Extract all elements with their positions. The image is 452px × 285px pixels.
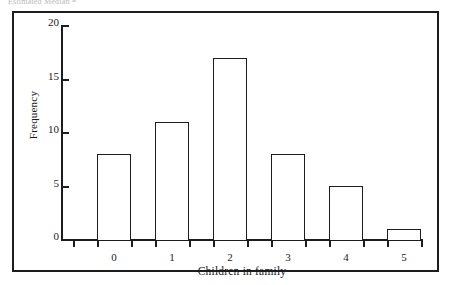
x-axis-tick-label-5: 5 <box>384 251 424 263</box>
y-axis-tick-15: 15 <box>63 79 69 81</box>
y-axis-label: Frequency <box>27 70 39 160</box>
y-axis-tick-0: 0 <box>63 239 69 241</box>
bar-category-5[interactable] <box>387 229 421 240</box>
x-axis-tick-label-3: 3 <box>268 251 308 263</box>
x-axis-tick-bar-0-right <box>131 241 133 247</box>
x-axis-tick-label-4: 4 <box>326 251 366 263</box>
x-axis-tick-bar-1-left <box>155 241 157 247</box>
x-axis-tick-edge <box>73 241 75 247</box>
y-axis-tick-label-20: 20 <box>48 17 59 28</box>
scan-artifact-top-text: Estimated Median = <box>8 0 308 7</box>
x-axis-label: Children in family <box>61 265 423 277</box>
bar-category-4[interactable] <box>329 186 363 240</box>
x-axis-tick-label-2: 2 <box>210 251 250 263</box>
bar-category-2[interactable] <box>213 58 247 240</box>
y-axis-tick-label-0: 0 <box>54 231 60 242</box>
y-axis-tick-5: 5 <box>63 186 69 188</box>
figure-frame: 0 5 10 15 20 0 <box>12 11 439 272</box>
bar-category-1[interactable] <box>155 122 189 240</box>
y-axis-tick-20: 20 <box>63 25 69 27</box>
y-axis-tick-label-5: 5 <box>54 178 60 189</box>
x-axis-tick-bar-5-right <box>421 241 423 247</box>
x-axis-tick-label-0: 0 <box>94 251 134 263</box>
x-axis-tick-label-1: 1 <box>152 251 192 263</box>
y-axis-tick-label-15: 15 <box>48 71 59 82</box>
x-axis-tick-bar-5-left <box>387 241 389 247</box>
x-axis-tick-bar-1-right <box>189 241 191 247</box>
x-axis-tick-bar-3-left <box>271 241 273 247</box>
histogram-chart: 0 5 10 15 20 0 <box>14 13 437 270</box>
x-axis-tick-bar-3-right <box>305 241 307 247</box>
x-axis-tick-bar-2-left <box>213 241 215 247</box>
bar-category-0[interactable] <box>97 154 131 240</box>
x-axis-tick-bar-4-left <box>329 241 331 247</box>
x-axis-tick-bar-0-left <box>97 241 99 247</box>
y-axis-tick-10: 10 <box>63 132 69 134</box>
y-axis-tick-label-10: 10 <box>48 124 59 135</box>
x-axis-tick-bar-2-right <box>247 241 249 247</box>
bar-category-3[interactable] <box>271 154 305 240</box>
x-axis-tick-bar-4-right <box>363 241 365 247</box>
